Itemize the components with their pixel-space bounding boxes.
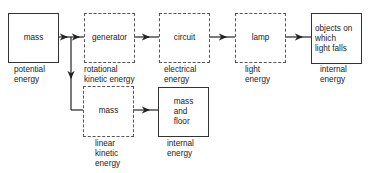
caption-light-energy: light energy (245, 65, 270, 85)
caption-rotational-kinetic-energy: rotational kinetic energy (84, 65, 135, 85)
node-circuit-text: circuit (174, 33, 195, 43)
node-mass-floor-text: mass and floor (174, 97, 194, 127)
caption-potential-energy: potential energy (14, 65, 45, 85)
node-lamp: lamp (235, 13, 286, 63)
node-mass-floor: mass and floor (158, 87, 209, 137)
node-circuit: circuit (159, 13, 210, 63)
node-mass-source-text: mass (24, 33, 44, 43)
caption-linear-kinetic-energy: linear kinetic energy (95, 139, 120, 169)
caption-internal-energy-floor: internal energy (167, 139, 194, 159)
caption-internal-energy-objects: internal energy (320, 65, 347, 85)
node-mass-linear-text: mass (99, 106, 119, 116)
node-objects-text: objects on which light falls (315, 24, 352, 54)
node-lamp-text: lamp (252, 33, 270, 43)
node-mass-source: mass (8, 13, 59, 63)
node-generator: generator (84, 13, 135, 63)
node-generator-text: generator (92, 33, 127, 43)
node-mass-linear: mass (83, 86, 134, 137)
caption-electrical-energy: electrical energy (164, 65, 196, 85)
node-objects: objects on which light falls (311, 13, 362, 64)
